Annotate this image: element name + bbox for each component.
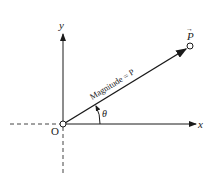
vector-p [65, 49, 186, 123]
angle-label: θ [102, 108, 107, 119]
y-axis-label: y [58, 19, 64, 31]
angle-arc [96, 106, 100, 124]
vector-diagram: y x O P → θ Magnitude = P [0, 0, 206, 181]
vector-arrow-accent: → [186, 25, 193, 33]
x-axis-label: x [197, 118, 203, 130]
origin-label: O [51, 125, 59, 137]
vector-tip-point [187, 43, 193, 49]
origin-point [60, 121, 66, 127]
